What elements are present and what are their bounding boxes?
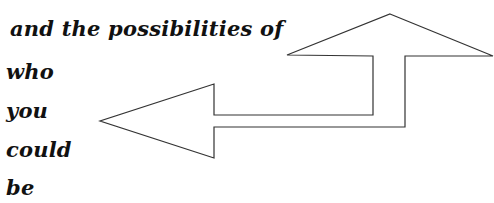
bent-double-arrow-icon [0,0,494,203]
